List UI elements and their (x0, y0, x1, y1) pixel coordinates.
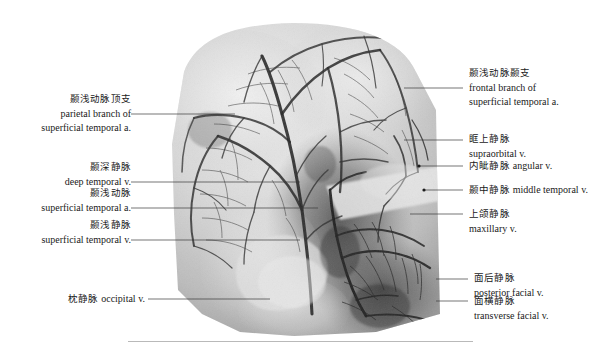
bottom-divider-rule (128, 341, 473, 342)
label-en-1: frontal branch of (469, 81, 559, 96)
label-en-2: superficial temporal a. (469, 95, 559, 110)
label-cn: 颞浅动脉颞支 (469, 66, 559, 81)
label-superficial-temporal-vein: 颞浅静脉 superficial temporal v. (0, 218, 131, 247)
label-middle-temporal-vein: 颞中静脉middle temporal v. (469, 183, 588, 198)
label-cn: 内眦静脉 (469, 160, 510, 171)
label-parietal-branch-superficial-temporal-artery: 颞浅动脉顶支 parietal branch of superficial te… (0, 92, 131, 136)
anatomical-figure-page: 颞浅动脉顶支 parietal branch of superficial te… (0, 0, 605, 353)
label-cn: 颞浅静脉 (0, 218, 131, 233)
label-cn: 颞中静脉 (469, 184, 510, 195)
label-en-1: superficial temporal a. (0, 201, 131, 216)
label-cn: 面后静脉 (474, 271, 544, 286)
label-supraorbital-vein: 眶上静脉 supraorbital v. (469, 132, 526, 161)
label-cn: 上颌静脉 (469, 207, 517, 222)
label-middle-temporal-vein-line: 颞中静脉middle temporal v. (469, 183, 588, 198)
label-deep-temporal-vein: 颞深静脉 deep temporal v. (0, 160, 131, 189)
label-cn: 颞深静脉 (0, 160, 131, 175)
label-en-1: maxillary v. (469, 222, 517, 237)
label-maxillary-vein: 上颌静脉 maxillary v. (469, 207, 517, 236)
label-transverse-facial-vein: 面横静脉 transverse facial v. (474, 294, 549, 323)
vascular-specimen-radiograph (144, 14, 450, 337)
label-en-1: transverse facial v. (474, 309, 549, 324)
specimen-image (144, 14, 450, 337)
label-occipital-vein: 枕静脉occipital v. (0, 292, 145, 307)
label-cn: 枕静脉 (68, 293, 99, 304)
label-cn: 面横静脉 (474, 294, 549, 309)
label-cn: 颞浅动脉 (0, 186, 131, 201)
label-frontal-branch-superficial-temporal-artery: 颞浅动脉颞支 frontal branch of superficial tem… (469, 66, 559, 110)
label-en-1: parietal branch of (0, 107, 131, 122)
label-cn: 颞浅动脉顶支 (0, 92, 131, 107)
label-en-2: superficial temporal a. (0, 121, 131, 136)
label-angular-vein-line: 内眦静脉angular v. (469, 159, 552, 174)
label-en-1: occipital v. (101, 293, 145, 304)
label-en-1: superficial temporal v. (0, 233, 131, 248)
label-occipital-vein-line: 枕静脉occipital v. (0, 292, 145, 307)
label-angular-vein: 内眦静脉angular v. (469, 159, 552, 174)
label-en-1: middle temporal v. (513, 184, 588, 195)
label-cn: 眶上静脉 (469, 132, 526, 147)
label-superficial-temporal-artery: 颞浅动脉 superficial temporal a. (0, 186, 131, 215)
label-en-1: angular v. (513, 160, 552, 171)
